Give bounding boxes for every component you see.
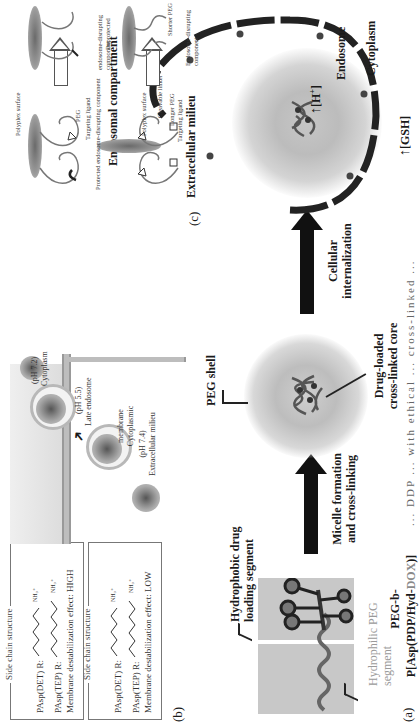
- side-chain-box-high: Side chain structure PAsp(DET) R: NH₃⁺ P…: [10, 542, 84, 720]
- tep-structure-icon: NH₃⁺: [125, 579, 139, 659]
- peg-shell-label: PEG shell: [204, 316, 218, 406]
- polymer-name-2: P[Asp(PDP/Hyd-DOX)]: [404, 526, 418, 706]
- late-endosome-label: Late endosome: [84, 326, 94, 426]
- drug-segment-pointer: [238, 623, 252, 642]
- svg-text:NH₃⁺: NH₃⁺: [128, 580, 134, 594]
- figure-canvas: (a) Hydrophilic PEG segment Hydrophobic …: [0, 0, 420, 726]
- shell-pointer-tick: [222, 390, 224, 404]
- hydrophobic-label-2: loading segment: [242, 482, 256, 622]
- h-sup: +: [308, 89, 317, 94]
- deprotected-label-2: endosome-disrupting component: [96, 0, 112, 70]
- polymer-name-1: PEG-b-: [388, 544, 402, 674]
- peg-label: PEG: [74, 110, 82, 122]
- panel-c-label: (c): [186, 212, 202, 226]
- up-arrow-icon: ↑: [308, 107, 323, 114]
- extracellular-ph: (pH 7.4): [138, 384, 148, 504]
- step1-label-2: and cross-linking: [344, 434, 358, 564]
- cross-linked-core-icon: [282, 372, 330, 420]
- shorter-peg-icon: [130, 4, 170, 64]
- side-chain-box-low: Side chain structure PAsp(DET) R: NH₃⁺ P…: [88, 542, 162, 720]
- membrane-label-2: membrane: [116, 376, 126, 476]
- gsh-concentration-label: ↑[GSH]: [398, 76, 412, 156]
- deprotected-loops-icon: [38, 2, 88, 66]
- h-concentration-label: ↑[H+]: [306, 34, 323, 114]
- polyplex-surface-label-2: Polyplex surface: [14, 92, 22, 136]
- dox-text: DOX: [404, 563, 418, 590]
- targeting-ligand-label: Targeting ligand: [176, 99, 184, 142]
- cytoplasm-label: Cytoplasm: [364, 0, 378, 76]
- endosome-label: Endosome: [334, 0, 348, 80]
- polyplex-icon: [36, 394, 66, 424]
- row-label: PAsp(TEP) R:: [53, 662, 63, 713]
- polyplex-surface-label: Polyplex surface: [140, 92, 148, 136]
- caption-fragment: ... DDP ... with ethical ... cross-linke…: [404, 260, 416, 526]
- panel-b-label: (b): [170, 707, 186, 722]
- extracellular-label: Extracellular milieu: [148, 384, 158, 504]
- panel-a-label: (a): [400, 708, 416, 722]
- cytoplasmic-membrane: [62, 354, 71, 544]
- det-structure-icon: NH₃⁺: [29, 588, 43, 658]
- internalization-arrow-icon: [300, 228, 314, 314]
- effect-high: Membrane destabilization effect: HIGH: [65, 569, 75, 713]
- cytoplasm-b-label: Cytoplasm: [40, 306, 50, 386]
- block-copolymer-icon: [258, 578, 354, 714]
- row-label: PAsp(DET) R:: [113, 660, 123, 713]
- peg-loops-icon: [36, 88, 90, 198]
- hydrophobic-label-1: Hydrophobic drug: [228, 482, 242, 622]
- micelle-formation-arrow-icon: [304, 472, 318, 554]
- up-arrow-icon: ↑: [397, 149, 412, 156]
- core-label-1: Drug-loaded: [372, 306, 386, 426]
- polymer-name-suffix: )]: [404, 555, 418, 563]
- cytoplasm-b-ph: (pH 7.2): [30, 304, 40, 384]
- row-tep: PAsp(TEP) R: NH₃⁺: [47, 579, 63, 713]
- shorter-peg-label: Shorter PEG: [166, 3, 174, 36]
- core-label-2: cross-linked core: [386, 296, 400, 436]
- effect-low: Membrane destabilization effect: LOW: [143, 571, 153, 713]
- row-label: PAsp(DET) R:: [35, 660, 45, 713]
- gsh-text: [GSH]: [398, 116, 412, 149]
- row-det: PAsp(DET) R: NH₃⁺: [29, 588, 45, 713]
- step1-label-1: Micelle formation: [330, 434, 344, 564]
- row-det: PAsp(DET) R: NH₃⁺: [107, 588, 123, 713]
- det-structure-icon: NH₃⁺: [107, 588, 121, 658]
- svg-text:NH₃⁺: NH₃⁺: [50, 580, 56, 594]
- row-tep: PAsp(TEP) R: NH₃⁺: [125, 579, 141, 713]
- tep-structure-icon: NH₃⁺: [47, 579, 61, 659]
- extracellular-title: Extracellular milieu: [184, 58, 198, 198]
- box-title: Side chain structure: [4, 606, 14, 683]
- h-close: ]: [309, 85, 323, 89]
- endosome-disrupting-label: Endosome-disrupting component: [184, 0, 200, 66]
- membrane-label-1: Cytoplasmic: [126, 376, 136, 476]
- svg-text:NH₃⁺: NH₃⁺: [32, 588, 38, 602]
- h-text: [H: [309, 94, 323, 107]
- targeting-ligand-label-2: Targeting ligand: [84, 97, 92, 140]
- late-endosome-ph: (pH 5.5): [74, 314, 84, 414]
- polymer-name-prefix: P[Asp(PDP/Hyd-: [404, 589, 418, 677]
- shell-pointer: [222, 402, 248, 404]
- row-label: PAsp(TEP) R:: [131, 662, 141, 713]
- longer-peg-label: Longer PEG: [168, 93, 176, 126]
- svg-text:NH₃⁺: NH₃⁺: [110, 588, 116, 602]
